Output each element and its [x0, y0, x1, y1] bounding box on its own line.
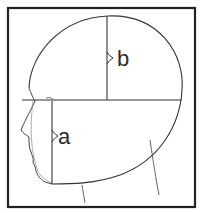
neck-back-line: [150, 140, 159, 195]
label-a: a: [58, 126, 70, 148]
frame: [8, 8, 195, 207]
face-inner-line: [31, 101, 52, 183]
neck-front-line: [82, 185, 85, 203]
label-b: b: [117, 48, 129, 70]
brace-b-icon: [107, 52, 113, 64]
head-proportion-diagram: [0, 0, 202, 213]
face-profile: [21, 88, 52, 184]
